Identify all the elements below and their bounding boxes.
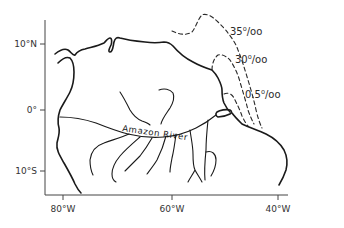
southern-tributary-1 (90, 134, 129, 175)
axis-frame (40, 20, 288, 200)
southern-tributary-6-tapajos (188, 130, 202, 182)
isohaline-label-0-5: 0.5⁰/oo (245, 89, 281, 100)
isohaline-labels: 35⁰/oo 30⁰/oo 0.5⁰/oo (230, 26, 281, 100)
southern-tributary-3 (125, 138, 152, 171)
x-label-60w: 60°W (160, 204, 185, 214)
amazon-river-label: Amazon River (122, 123, 189, 142)
x-label-40w: 40°W (266, 204, 291, 214)
y-label-0: 0° (27, 105, 37, 115)
southern-tributary-7-xingu (205, 120, 208, 180)
river-network (60, 89, 216, 182)
west-coastline (57, 57, 81, 193)
x-label-80w: 80°W (51, 204, 76, 214)
northern-tributary-east (159, 89, 174, 124)
northern-tributary-west (120, 92, 150, 125)
isohaline-label-35: 35⁰/oo (230, 26, 262, 37)
east-coastline (232, 113, 287, 185)
southern-tributary-8-loop (206, 151, 216, 176)
y-label-10n: 10°N (14, 39, 37, 49)
isohaline-label-30: 30⁰/oo (235, 54, 267, 65)
y-label-10s: 10°S (15, 166, 37, 176)
amazon-salinity-map: 10°N 0° 10°S 80°W 60°W 40°W Amazon (0, 0, 344, 228)
north-coastline (55, 38, 230, 112)
